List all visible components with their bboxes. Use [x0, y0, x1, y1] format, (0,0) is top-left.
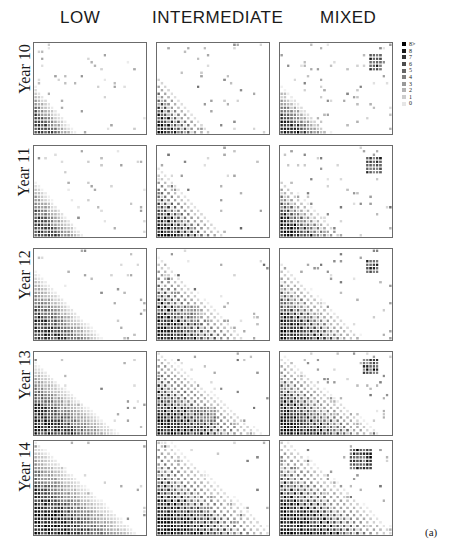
- heatmap-panel-year-11-mixed: [279, 145, 393, 238]
- heatmap-canvas: [34, 146, 146, 237]
- heatmap-panel-year-12-mixed: [279, 248, 393, 341]
- column-header-row: LOW INTERMEDIATE MIXED: [0, 8, 453, 36]
- heatmap-panel-year-12-low: [33, 248, 147, 341]
- row-label-year-12: Year 12: [0, 266, 34, 284]
- legend-label: 0: [409, 100, 412, 107]
- legend-entry-2: 2: [402, 87, 450, 94]
- legend-entry-3: 3: [402, 81, 450, 88]
- legend-entry-1: 1: [402, 94, 450, 101]
- legend-entry-5: 5: [402, 67, 450, 74]
- legend-label: 6: [409, 61, 412, 68]
- legend-swatch-icon: [402, 95, 406, 99]
- heatmap-panel-year-14-intermediate: [156, 440, 270, 536]
- legend-label: 8>: [409, 41, 415, 48]
- heatmap-panel-year-14-mixed: [279, 440, 393, 536]
- legend-swatch-icon: [402, 69, 406, 73]
- legend-swatch-icon: [402, 49, 406, 53]
- legend-entry-6: 6: [402, 61, 450, 68]
- legend-entry-0: 0: [402, 100, 450, 107]
- heatmap-panel-year-10-intermediate: [156, 42, 270, 135]
- legend-label: 7: [409, 54, 412, 61]
- legend-label: 3: [409, 81, 412, 88]
- legend-entry-4: 4: [402, 74, 450, 81]
- row-label-year-13: Year 13: [0, 366, 34, 384]
- legend-swatch-icon: [402, 62, 406, 66]
- heatmap-panel-year-10-mixed: [279, 42, 393, 135]
- legend-label: 8: [409, 48, 412, 55]
- heatmap-canvas: [157, 441, 269, 535]
- row-label-year-12-text: Year 12: [16, 250, 34, 299]
- heatmap-panel-year-13-mixed: [279, 351, 393, 436]
- heatmap-canvas: [157, 249, 269, 340]
- legend-swatch-icon: [402, 82, 406, 86]
- subfigure-label: (a): [425, 526, 437, 538]
- legend-label: 5: [409, 67, 412, 74]
- heatmap-panel-year-11-low: [33, 145, 147, 238]
- heatmap-canvas: [34, 43, 146, 134]
- heatmap-canvas: [280, 352, 392, 435]
- heatmap-panel-year-14-low: [33, 440, 147, 536]
- legend-label: 2: [409, 87, 412, 94]
- row-label-year-10: Year 10: [0, 60, 34, 78]
- heatmap-canvas: [34, 352, 146, 435]
- legend-swatch-icon: [402, 102, 406, 106]
- legend-entry-8plus: 8>: [402, 41, 450, 48]
- row-label-year-13-text: Year 13: [16, 350, 34, 399]
- heatmap-canvas: [157, 352, 269, 435]
- heatmap-canvas: [280, 146, 392, 237]
- legend-swatch-icon: [402, 75, 406, 79]
- heatmap-canvas: [34, 249, 146, 340]
- column-header-low: LOW: [60, 8, 100, 28]
- heatmap-canvas: [157, 43, 269, 134]
- legend-label: 4: [409, 74, 412, 81]
- heatmap-panel-year-13-intermediate: [156, 351, 270, 436]
- row-label-year-10-text: Year 10: [16, 44, 34, 93]
- legend-label: 1: [409, 94, 412, 101]
- heatmap-panel-year-11-intermediate: [156, 145, 270, 238]
- heatmap-canvas: [280, 249, 392, 340]
- row-label-year-11: Year 11: [0, 163, 34, 181]
- heatmap-panel-year-13-low: [33, 351, 147, 436]
- column-header-intermediate: INTERMEDIATE: [152, 8, 283, 28]
- heatmap-panel-year-12-intermediate: [156, 248, 270, 341]
- heatmap-canvas: [280, 43, 392, 134]
- legend-swatch-icon: [402, 42, 406, 46]
- legend-entry-8: 8: [402, 48, 450, 55]
- legend-swatch-icon: [402, 55, 406, 59]
- heatmap-panel-year-10-low: [33, 42, 147, 135]
- heatmap-canvas: [34, 441, 146, 535]
- row-label-year-14-text: Year 14: [16, 442, 34, 491]
- heatmap-canvas: [280, 441, 392, 535]
- legend: 8>876543210: [402, 41, 450, 107]
- column-header-mixed: MIXED: [320, 8, 376, 28]
- legend-entry-7: 7: [402, 54, 450, 61]
- row-label-year-14: Year 14: [0, 458, 34, 476]
- figure-container: LOW INTERMEDIATE MIXED Year 10 Year 11 Y…: [0, 0, 453, 556]
- row-label-year-11-text: Year 11: [15, 148, 33, 197]
- legend-swatch-icon: [402, 88, 406, 92]
- heatmap-canvas: [157, 146, 269, 237]
